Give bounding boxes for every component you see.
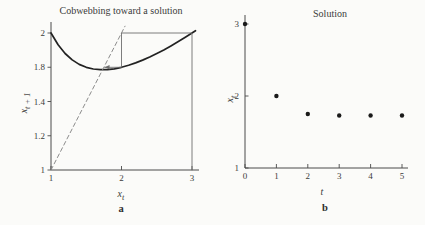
cobweb-steps xyxy=(105,33,192,170)
panel-b-x-tick-label: 5 xyxy=(400,171,405,181)
panel-b-y-axis-label: xt xyxy=(224,64,236,134)
panel-b-x-tick-label: 4 xyxy=(368,171,373,181)
panel-a-y-tick-label: 1.2 xyxy=(34,131,45,141)
panel-b-letter: b xyxy=(265,202,385,214)
panel-b-x-tick-label: 1 xyxy=(274,171,279,181)
panel-a-x-tick-label: 1 xyxy=(49,173,54,183)
solution-point xyxy=(337,113,341,117)
panel-a-y-tick-label: 2 xyxy=(41,28,46,38)
solution-point xyxy=(306,112,310,116)
panel-a-x-axis-label: xt xyxy=(61,188,181,203)
panel-b-ylabel-base: x xyxy=(224,98,235,102)
solution-point xyxy=(368,113,372,117)
panel-a-xlabel-sub: t xyxy=(122,193,124,202)
panel-a-y-axis-label: xt + 1 xyxy=(18,68,30,138)
cobwebbing-figure: 21.81.41.21123321012345 Cobwebbing towar… xyxy=(0,0,425,225)
updating-function-curve xyxy=(51,31,196,70)
panel-a-ylabel-sub: t + 1 xyxy=(23,93,32,109)
panel-a-x-tick-label: 2 xyxy=(119,173,124,183)
panel-a-y-tick-label: 1.8 xyxy=(34,62,46,72)
diagonal-identity-line xyxy=(51,26,125,170)
panel-b-x-tick-label: 3 xyxy=(337,171,342,181)
panel-b-y-tick-label: 1 xyxy=(235,163,240,173)
solution-point xyxy=(274,94,278,98)
panel-b-x-tick-label: 2 xyxy=(306,171,311,181)
panel-b-y-tick-label: 3 xyxy=(235,19,240,29)
solution-point xyxy=(400,113,404,117)
panel-b-x-axis-label: t xyxy=(262,186,382,201)
panel-b-x-tick-label: 0 xyxy=(243,171,248,181)
panel-a-x-tick-label: 3 xyxy=(190,173,195,183)
panel-a-title: Cobwebbing toward a solution xyxy=(21,5,221,17)
panel-b-title: Solution xyxy=(250,8,410,20)
panel-b-ylabel-sub: t xyxy=(229,96,238,98)
panel-a-y-tick-label: 1.4 xyxy=(34,97,46,107)
panel-a-y-tick-label: 1 xyxy=(41,165,46,175)
panel-b-xlabel-base: t xyxy=(321,186,324,197)
panel-a-ylabel-base: x xyxy=(18,109,29,113)
panel-a-letter: a xyxy=(61,203,181,215)
solution-point xyxy=(243,22,247,26)
